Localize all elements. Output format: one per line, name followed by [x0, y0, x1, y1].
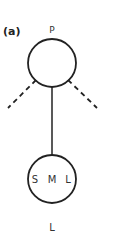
inner-label-s: S: [32, 174, 38, 185]
inner-label-m: M: [48, 174, 57, 185]
inner-label-l: L: [65, 174, 71, 185]
panel-label: (a): [3, 25, 20, 38]
left-dashed-branch: [8, 80, 36, 108]
top-node-label: P: [49, 25, 55, 35]
right-dashed-branch: [68, 80, 97, 108]
tree-diagram: (a) P S M L L: [0, 0, 117, 242]
bottom-node-label: L: [49, 222, 55, 233]
diagram-canvas: (a) P S M L L: [0, 0, 117, 242]
